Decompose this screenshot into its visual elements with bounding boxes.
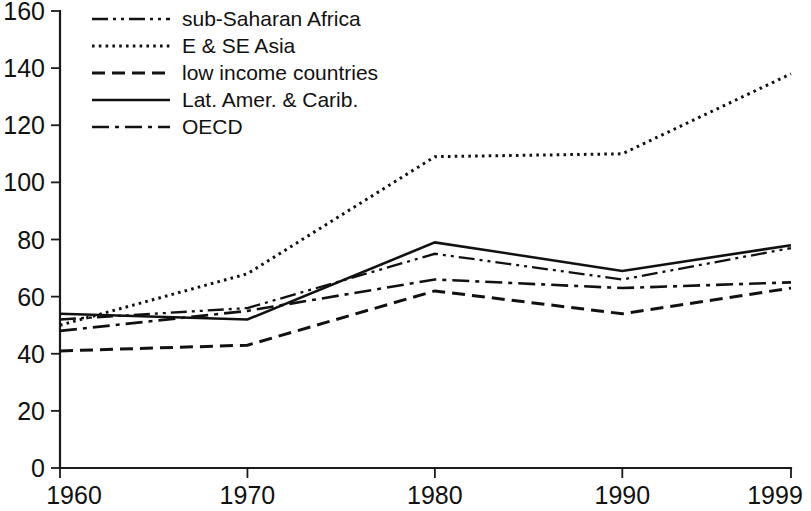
x-axis-ticks: 19601970198019901999 xyxy=(46,468,803,509)
x-tick-label: 1960 xyxy=(46,481,102,509)
y-tick-label: 40 xyxy=(17,340,45,368)
chart-container: 020406080100120140160 196019701980199019… xyxy=(0,0,811,511)
series-line-1 xyxy=(60,74,791,325)
x-tick-label: 1970 xyxy=(220,481,276,509)
line-chart-figure: 020406080100120140160 196019701980199019… xyxy=(0,0,811,511)
x-tick-label: 1980 xyxy=(407,481,463,509)
y-tick-label: 100 xyxy=(3,168,45,196)
legend-label-1: E & SE Asia xyxy=(182,34,296,57)
data-series-group xyxy=(60,74,791,351)
x-tick-label: 1999 xyxy=(747,481,803,509)
y-tick-label: 20 xyxy=(17,397,45,425)
legend-label-0: sub-Saharan Africa xyxy=(182,7,361,30)
legend-label-3: Lat. Amer. & Carib. xyxy=(182,88,358,111)
y-tick-label: 0 xyxy=(31,454,45,482)
x-tick-label: 1990 xyxy=(594,481,650,509)
y-tick-label: 160 xyxy=(3,0,45,25)
y-tick-label: 120 xyxy=(3,111,45,139)
chart-legend: sub-Saharan AfricaE & SE Asialow income … xyxy=(92,7,378,138)
legend-label-4: OECD xyxy=(182,115,243,138)
y-axis-ticks: 020406080100120140160 xyxy=(3,0,60,482)
y-tick-label: 140 xyxy=(3,54,45,82)
series-line-0 xyxy=(60,248,791,319)
legend-label-2: low income countries xyxy=(182,61,378,84)
y-tick-label: 80 xyxy=(17,226,45,254)
y-tick-label: 60 xyxy=(17,283,45,311)
